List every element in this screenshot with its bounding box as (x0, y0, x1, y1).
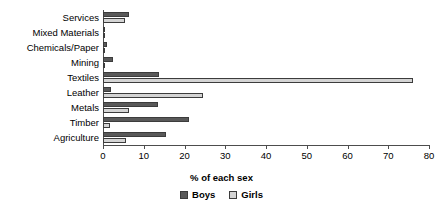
bar-boys-mining (103, 57, 113, 62)
bar-girls-chemicals-paper (103, 48, 105, 53)
legend-label-boys: Boys (192, 189, 215, 200)
x-tick-label: 80 (409, 150, 443, 161)
bar-boys-agriculture (103, 132, 166, 137)
x-tick (266, 145, 267, 149)
x-tick-label: 50 (287, 150, 327, 161)
bar-boys-services (103, 12, 129, 17)
bar-boys-mixed-materials (103, 27, 105, 32)
bar-girls-metals (103, 108, 129, 113)
x-tick (103, 145, 104, 149)
bar-girls-leather (103, 93, 203, 98)
x-tick-label: 70 (368, 150, 408, 161)
category-label: Leather (0, 88, 99, 98)
category-axis-labels: ServicesMixed MaterialsChemicals/PaperMi… (0, 10, 99, 145)
legend-swatch-boys-icon (180, 191, 188, 199)
x-tick-label: 20 (165, 150, 205, 161)
x-tick (429, 145, 430, 149)
category-label: Mining (0, 58, 99, 68)
x-tick-label: 0 (83, 150, 123, 161)
bar-chart: ServicesMixed MaterialsChemicals/PaperMi… (0, 0, 443, 210)
category-label: Timber (0, 118, 99, 128)
legend: Boys Girls (0, 189, 443, 200)
x-tick-label: 30 (205, 150, 245, 161)
bar-girls-timber (103, 123, 110, 128)
bar-boys-metals (103, 102, 158, 107)
bar-girls-mining (103, 63, 105, 68)
legend-swatch-girls-icon (229, 191, 237, 199)
x-tick-label: 60 (328, 150, 368, 161)
x-tick (307, 145, 308, 149)
plot-area (103, 10, 429, 145)
bar-girls-textiles (103, 78, 413, 83)
bar-boys-textiles (103, 72, 159, 77)
category-label: Services (0, 13, 99, 23)
legend-item-boys: Boys (180, 189, 215, 200)
bar-girls-mixed-materials (103, 33, 105, 38)
legend-label-girls: Girls (241, 189, 263, 200)
x-tick (185, 145, 186, 149)
category-label: Agriculture (0, 133, 99, 143)
x-tick-label: 10 (124, 150, 164, 161)
bar-boys-timber (103, 117, 189, 122)
bar-boys-leather (103, 87, 111, 92)
x-tick (348, 145, 349, 149)
category-label: Textiles (0, 73, 99, 83)
x-tick (144, 145, 145, 149)
x-tick (388, 145, 389, 149)
x-tick (225, 145, 226, 149)
legend-item-girls: Girls (229, 189, 263, 200)
bar-girls-agriculture (103, 138, 126, 143)
x-axis-title: % of each sex (0, 172, 443, 183)
bar-boys-chemicals-paper (103, 42, 107, 47)
category-label: Mixed Materials (0, 28, 99, 38)
category-label: Metals (0, 103, 99, 113)
bar-girls-services (103, 18, 125, 23)
category-label: Chemicals/Paper (0, 43, 99, 53)
x-tick-label: 40 (246, 150, 286, 161)
